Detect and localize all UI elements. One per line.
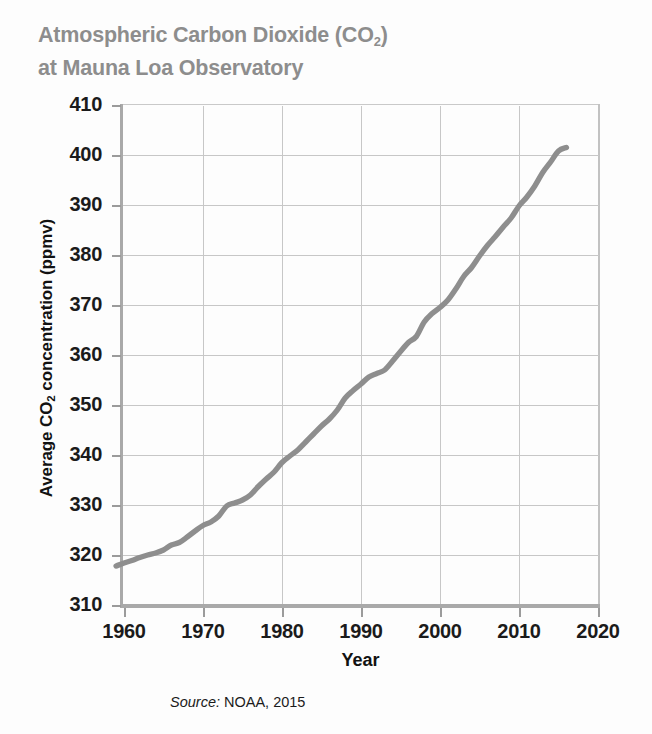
ytick-mark-320 [112,555,121,557]
gridline-x-1980 [282,106,283,605]
chart-figure: Atmospheric Carbon Dioxide (CO2)at Mauna… [0,0,652,734]
xtick-label-2020: 2020 [558,620,638,643]
ytick-label-410: 410 [40,93,102,116]
x-axis-title: Year [122,650,599,671]
gridline-x-1990 [361,106,362,605]
xtick-label-2010: 2010 [479,620,559,643]
y-axis-title-post: concentration (ppmv) [37,219,56,395]
xtick-mark-2020 [598,608,600,617]
xtick-label-1990: 1990 [321,620,401,643]
ytick-mark-340 [112,455,121,457]
gridline-x-2010 [519,106,520,605]
gridline-x-1970 [203,106,204,605]
y-axis-title-subscript: 2 [45,395,57,401]
ytick-mark-370 [112,305,121,307]
y-axis-title: Average CO2 concentration (ppmv) [37,148,57,568]
x-axis-line [120,604,600,608]
ytick-mark-310 [112,605,121,607]
ytick-mark-410 [112,105,121,107]
ytick-label-310: 310 [40,593,102,616]
xtick-mark-1990 [361,608,363,617]
xtick-mark-2010 [519,608,521,617]
chart-title: Atmospheric Carbon Dioxide (CO2)at Mauna… [38,22,598,82]
ytick-mark-380 [112,255,121,257]
ytick-mark-360 [112,355,121,357]
chart-title-line1-close: ) [381,23,388,47]
source-value: NOAA, 2015 [220,694,305,710]
xtick-label-2000: 2000 [400,620,480,643]
gridline-x-2000 [440,106,441,605]
plot-border-top [122,104,600,105]
y-axis-title-pre: Average CO [37,402,56,498]
xtick-label-1970: 1970 [163,620,243,643]
xtick-mark-1980 [282,608,284,617]
source-label: Source: [170,694,220,710]
xtick-label-1980: 1980 [242,620,322,643]
ytick-mark-330 [112,505,121,507]
xtick-mark-1960 [124,608,126,617]
ytick-mark-390 [112,205,121,207]
chart-title-line2: at Mauna Loa Observatory [38,56,303,80]
plot-border-right [598,104,600,608]
xtick-label-1960: 1960 [84,620,164,643]
ytick-mark-400 [112,155,121,157]
source-note: Source: NOAA, 2015 [170,694,305,710]
chart-title-subscript: 2 [374,34,381,49]
ytick-mark-350 [112,405,121,407]
xtick-mark-1970 [203,608,205,617]
xtick-mark-2000 [440,608,442,617]
chart-title-line1-text: Atmospheric Carbon Dioxide (CO [38,23,374,47]
